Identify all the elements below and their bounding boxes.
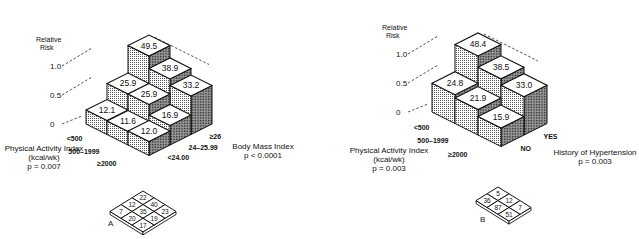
z-category-label: 24–25.99 — [189, 144, 218, 151]
x-category-label: <500 — [414, 124, 430, 131]
y-axis-label: Risk — [386, 32, 400, 39]
bar-value-label: 11.6 — [120, 116, 136, 126]
bar-value-label: 38.9 — [162, 63, 179, 73]
sample-size-value: 23 — [161, 208, 169, 215]
sample-size-value: 12 — [505, 197, 513, 204]
sample-size-value: 35 — [139, 208, 147, 215]
baseline-guide — [62, 116, 82, 124]
y-axis-label: Relative — [382, 24, 407, 31]
z-axis-title: Body Mass Index — [232, 142, 293, 151]
bar-value-label: 25.9 — [120, 78, 137, 88]
sample-size-value: 7 — [518, 204, 522, 211]
y-gridline — [62, 77, 92, 95]
chart-panel-b: 00.51.0RelativeRisk48.438.533.024.821.91… — [350, 24, 637, 224]
y-tick-label: 0 — [396, 108, 401, 117]
bar-value-label: 12.0 — [141, 126, 158, 136]
bar-value-label: 25.9 — [141, 89, 158, 99]
bar-value-label: 33.0 — [516, 80, 533, 90]
x-axis-title: Physical Activity Index — [5, 144, 84, 153]
bar-value-label: 12.1 — [99, 105, 116, 115]
z-axis-pvalue: p < 0.0001 — [244, 151, 283, 160]
y-tick-label: 0.5 — [50, 91, 62, 100]
x-axis-title: Physical Activity Index — [350, 146, 429, 155]
baseline-guide — [408, 104, 428, 112]
z-category-label: YES — [544, 133, 558, 140]
y-axis-label: Risk — [40, 44, 54, 51]
bar-value-label: 16.9 — [162, 110, 179, 120]
y-gridline — [408, 65, 438, 83]
x-axis-pvalue: p = 0.007 — [27, 162, 61, 171]
figure-canvas: 00.51.0RelativeRisk49.538.933.225.925.91… — [0, 0, 639, 239]
sample-size-value: 87 — [494, 204, 502, 211]
sample-size-value: 22 — [139, 194, 147, 201]
y-gridline — [408, 36, 438, 54]
sample-size-value: 20 — [128, 215, 136, 222]
sample-size-value: 36 — [483, 197, 491, 204]
y-gridline — [62, 48, 92, 66]
y-tick-label: 0 — [50, 120, 55, 129]
x-axis-pvalue: p = 0.003 — [372, 164, 406, 173]
sample-size-value: 40 — [150, 201, 158, 208]
panel-label: B — [480, 215, 485, 224]
chart-panel-a: 00.51.0RelativeRisk49.538.933.225.925.91… — [5, 35, 294, 235]
z-axis-title: History of Hypertension — [553, 148, 636, 157]
x-category-label: <500 — [67, 135, 83, 142]
bar-value-label: 48.4 — [470, 39, 487, 49]
z-category-label: NO — [521, 145, 532, 152]
panel-label: A — [108, 219, 114, 228]
sample-size-value: 5 — [496, 190, 500, 197]
sample-size-value: 7 — [119, 208, 123, 215]
z-category-label: ≥26 — [210, 133, 222, 140]
sample-size-grid: 22124073523201917 — [110, 191, 176, 235]
bar-value-label: 49.5 — [141, 41, 158, 51]
sample-size-value: 19 — [150, 215, 158, 222]
bar-value-label: 33.2 — [183, 80, 200, 90]
bar-value-label: 38.5 — [493, 62, 510, 72]
x-axis-unit: (kcal/wk) — [28, 153, 60, 162]
x-category-label: 500–1999 — [417, 137, 448, 144]
bar-value-label: 15.9 — [493, 112, 510, 122]
y-tick-label: 1.0 — [396, 50, 408, 59]
x-axis-unit: (kcal/wk) — [373, 155, 405, 164]
z-category-label: <24.00 — [168, 154, 190, 161]
bar-value-label: 24.8 — [447, 78, 464, 88]
y-axis-label: Relative — [36, 36, 61, 43]
sample-size-value: 17 — [139, 222, 147, 229]
x-category-label: ≥2000 — [97, 160, 117, 167]
z-axis-pvalue: p = 0.003 — [578, 157, 612, 166]
y-tick-label: 0.5 — [396, 79, 408, 88]
y-tick-label: 1.0 — [50, 62, 62, 71]
sample-size-value: 12 — [128, 201, 136, 208]
sample-size-value: 51 — [505, 211, 513, 218]
x-category-label: ≥2000 — [448, 151, 468, 158]
bar-value-label: 21.9 — [470, 93, 487, 103]
